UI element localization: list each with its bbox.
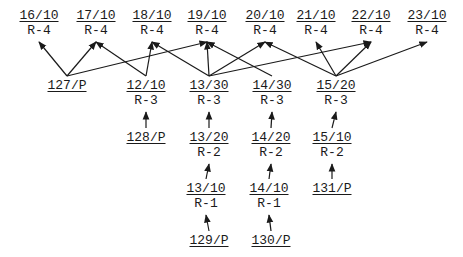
node-id-label: 128/P [126,130,165,145]
edge-arrow [67,42,96,76]
edge-arrow [336,42,427,76]
node-18-10: 18/10R-4 [132,8,171,38]
edge-arrow [152,42,209,76]
node-id-label: 15/10 [312,130,351,145]
node-id-label: 13/10 [186,181,225,196]
node-id-label: 23/10 [407,8,446,23]
edge-arrow [39,42,67,76]
node-rank-label: R-4 [19,23,58,38]
node-rank-label: R-3 [189,93,228,108]
node-id-label: 18/10 [132,8,171,23]
node-129-p: 129/P [189,233,228,248]
node-id-label: 14/10 [249,181,288,196]
node-rank-label: R-1 [249,196,288,211]
node-id-label: 13/20 [189,130,228,145]
diagram-canvas: 16/10R-417/10R-418/10R-419/10R-420/10R-4… [0,0,463,257]
node-13-10: 13/10R-1 [186,181,225,211]
node-rank-label: R-3 [252,93,291,108]
edge-arrow [332,112,336,128]
node-id-label: 12/10 [126,78,165,93]
node-20-10: 20/10R-4 [245,8,284,38]
node-id-label: 20/10 [245,8,284,23]
node-id-label: 14/30 [252,78,291,93]
node-rank-label: R-3 [126,93,165,108]
node-id-label: 13/30 [189,78,228,93]
node-127-p: 127/P [47,78,86,93]
node-rank-label: R-2 [312,145,351,160]
node-131-p: 131/P [312,181,351,196]
edge-arrow [206,215,209,231]
node-id-label: 16/10 [19,8,58,23]
edge-arrow [336,42,371,76]
node-128-p: 128/P [126,130,165,145]
node-23-10: 23/10R-4 [407,8,446,38]
node-16-10: 16/10R-4 [19,8,58,38]
node-id-label: 127/P [47,78,86,93]
node-130-p: 130/P [251,233,290,248]
edge-arrow [271,112,272,128]
node-id-label: 130/P [251,233,290,248]
node-rank-label: R-2 [189,145,228,160]
node-13-20: 13/20R-2 [189,130,228,160]
edge-arrow [146,42,152,76]
node-15-10: 15/10R-2 [312,130,351,160]
node-22-10: 22/10R-4 [351,8,390,38]
node-15-20: 15/20R-3 [316,78,355,108]
node-rank-label: R-3 [316,93,355,108]
edge-arrow [207,42,209,76]
edge-arrow [67,42,207,76]
node-19-10: 19/10R-4 [187,8,226,38]
node-id-label: 17/10 [76,8,115,23]
node-id-label: 14/20 [251,130,290,145]
node-14-20: 14/20R-2 [251,130,290,160]
node-21-10: 21/10R-4 [296,8,335,38]
node-rank-label: R-1 [186,196,225,211]
node-id-label: 15/20 [316,78,355,93]
edge-arrow [269,215,271,231]
edges-layer [0,0,463,257]
node-id-label: 22/10 [351,8,390,23]
node-id-label: 129/P [189,233,228,248]
node-rank-label: R-4 [407,23,446,38]
edge-arrow [206,164,209,179]
node-id-label: 131/P [312,181,351,196]
node-13-30: 13/30R-3 [189,78,228,108]
node-14-10: 14/10R-1 [249,181,288,211]
node-14-30: 14/30R-3 [252,78,291,108]
node-rank-label: R-4 [245,23,284,38]
node-rank-label: R-4 [76,23,115,38]
node-rank-label: R-2 [251,145,290,160]
node-17-10: 17/10R-4 [76,8,115,38]
edge-arrow [269,164,271,179]
edge-arrow [209,42,371,76]
node-rank-label: R-4 [351,23,390,38]
node-rank-label: R-4 [296,23,335,38]
node-id-label: 21/10 [296,8,335,23]
node-id-label: 19/10 [187,8,226,23]
node-rank-label: R-4 [132,23,171,38]
node-rank-label: R-4 [187,23,226,38]
node-12-10: 12/10R-3 [126,78,165,108]
